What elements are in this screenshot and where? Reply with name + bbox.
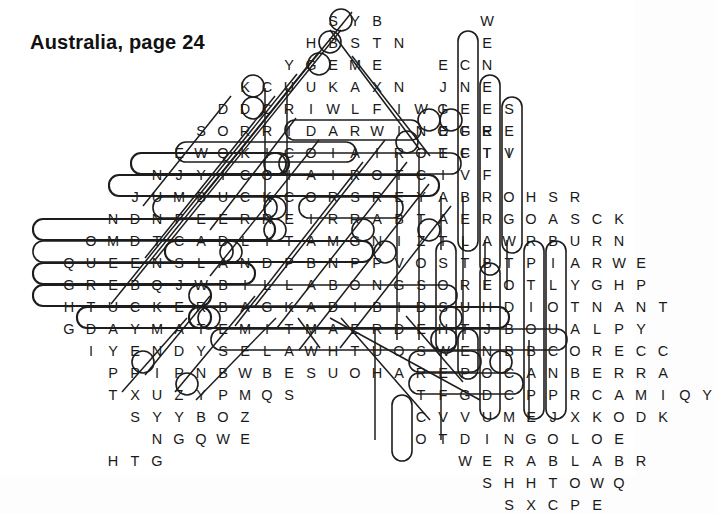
grid-letter: N xyxy=(476,54,498,76)
grid-letter: R xyxy=(520,230,542,252)
grid-letter: E xyxy=(124,252,146,274)
grid-letter: W xyxy=(234,362,256,384)
grid-letter: A xyxy=(652,362,674,384)
grid-letter: R xyxy=(344,164,366,186)
grid-letter: R xyxy=(476,208,498,230)
grid-letter: I xyxy=(432,164,454,186)
grid-letter: E xyxy=(476,98,498,120)
grid-letter: C xyxy=(124,296,146,318)
grid-letter: V xyxy=(432,406,454,428)
grid-letter: I xyxy=(256,142,278,164)
grid-letter: D xyxy=(388,318,410,340)
grid-letter: P xyxy=(168,362,190,384)
grid-letter: A xyxy=(476,230,498,252)
grid-letter: L xyxy=(278,274,300,296)
grid-letter: H xyxy=(432,318,454,340)
grid-letter: B xyxy=(388,208,410,230)
grid-letter: E xyxy=(476,274,498,296)
grid-letter: V xyxy=(388,252,410,274)
grid-letter: B xyxy=(454,186,476,208)
grid-letter: S xyxy=(300,362,322,384)
grid-letter: J xyxy=(168,164,190,186)
grid-letter: C xyxy=(410,164,432,186)
grid-letter: C xyxy=(630,340,652,362)
grid-letter: O xyxy=(542,296,564,318)
grid-letter: C xyxy=(278,142,300,164)
grid-letter: S xyxy=(564,208,586,230)
grid-letter: E xyxy=(278,208,300,230)
grid-letter: E xyxy=(432,120,454,142)
grid-letter: S xyxy=(344,32,366,54)
grid-letter: I xyxy=(322,164,344,186)
grid-letter: N xyxy=(388,32,410,54)
grid-letter: R xyxy=(388,142,410,164)
grid-letter: A xyxy=(344,142,366,164)
grid-letter: R xyxy=(564,384,586,406)
grid-letter: G xyxy=(520,428,542,450)
grid-letter: W xyxy=(190,142,212,164)
grid-letter: G xyxy=(58,274,80,296)
grid-letter: J xyxy=(542,406,564,428)
grid-letter: T xyxy=(80,296,102,318)
grid-letter: P xyxy=(520,384,542,406)
grid-letter: O xyxy=(586,428,608,450)
grid-letter: S xyxy=(476,472,498,494)
grid-letter: E xyxy=(432,54,454,76)
grid-letter: I xyxy=(146,362,168,384)
grid-letter: O xyxy=(498,186,520,208)
grid-letter: E xyxy=(608,428,630,450)
grid-letter: D xyxy=(212,98,234,120)
grid-letter: L xyxy=(344,98,366,120)
grid-letter: B xyxy=(124,274,146,296)
grid-letter: W xyxy=(432,340,454,362)
grid-letter: Q xyxy=(256,384,278,406)
grid-letter: T xyxy=(278,318,300,340)
grid-letter: G xyxy=(256,296,278,318)
grid-letter: N xyxy=(410,120,432,142)
grid-letter: I xyxy=(498,142,520,164)
grid-letter: L xyxy=(542,274,564,296)
grid-letter: W xyxy=(498,230,520,252)
grid-letter: S xyxy=(410,340,432,362)
grid-letter: R xyxy=(586,252,608,274)
grid-letter: T xyxy=(410,208,432,230)
grid-letter: D xyxy=(124,230,146,252)
grid-letter: D xyxy=(168,340,190,362)
grid-letter: R xyxy=(608,362,630,384)
grid-letter: A xyxy=(322,120,344,142)
grid-letter: O xyxy=(410,428,432,450)
grid-letter: T xyxy=(454,252,476,274)
grid-letter: E xyxy=(520,406,542,428)
grid-letter: A xyxy=(388,362,410,384)
grid-letter: N xyxy=(234,252,256,274)
grid-letter: I xyxy=(388,296,410,318)
grid-letter: R xyxy=(586,340,608,362)
grid-letter: G xyxy=(344,230,366,252)
grid-letter: O xyxy=(564,472,586,494)
grid-letter: I xyxy=(542,252,564,274)
grid-letter: B xyxy=(498,318,520,340)
grid-letter: J xyxy=(476,318,498,340)
grid-letter: B xyxy=(212,274,234,296)
grid-letter: B xyxy=(542,230,564,252)
grid-letter: C xyxy=(168,230,190,252)
grid-letter: A xyxy=(212,252,234,274)
grid-letter: N xyxy=(476,340,498,362)
grid-letter: E xyxy=(498,120,520,142)
grid-letter: I xyxy=(300,208,322,230)
grid-letter: E xyxy=(630,252,652,274)
grid-letter: I xyxy=(256,230,278,252)
grid-letter: P xyxy=(102,362,124,384)
grid-letter: Y xyxy=(630,318,652,340)
grid-letter: M xyxy=(168,186,190,208)
grid-letter: B xyxy=(322,274,344,296)
grid-letter: E xyxy=(366,54,388,76)
grid-letter: T xyxy=(366,32,388,54)
grid-letter: O xyxy=(608,406,630,428)
grid-letter: M xyxy=(344,54,366,76)
grid-letter: B xyxy=(366,10,388,32)
grid-letter: P xyxy=(608,318,630,340)
grid-letter: N xyxy=(454,76,476,98)
grid-letter: F xyxy=(476,164,498,186)
